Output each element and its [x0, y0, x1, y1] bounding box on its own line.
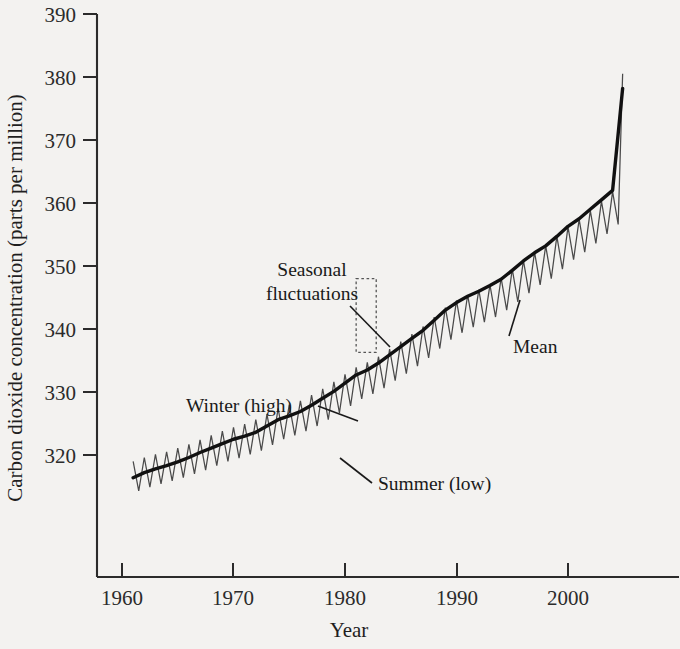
y-tick-label-370: 370 [45, 129, 77, 153]
seasonal-fluctuations-label-line2: fluctuations [266, 283, 358, 304]
x-axis-title: Year [330, 618, 369, 642]
x-tick-label-1980: 1980 [324, 586, 366, 610]
x-tick-label-1990: 1990 [436, 586, 478, 610]
y-tick-label-320: 320 [45, 444, 77, 468]
co2-concentration-chart: 390 380 370 360 350 340 330 320 1960 197… [0, 0, 680, 649]
y-tick-label-360: 360 [45, 192, 77, 216]
mean-label: Mean [513, 336, 558, 357]
x-tick-label-1970: 1970 [212, 586, 254, 610]
y-axis-title: Carbon dioxide concentration (parts per … [3, 94, 27, 502]
winter-high-label: Winter (high) [186, 395, 292, 417]
x-tick-label-2000: 2000 [547, 586, 589, 610]
y-tick-label-330: 330 [45, 381, 77, 405]
y-tick-label-380: 380 [45, 66, 77, 90]
y-tick-label-340: 340 [45, 318, 77, 342]
y-tick-label-350: 350 [45, 255, 77, 279]
chart-background [0, 0, 680, 649]
y-tick-label-390: 390 [45, 3, 77, 27]
seasonal-fluctuations-label-line1: Seasonal [277, 259, 347, 280]
x-tick-label-1960: 1960 [101, 586, 143, 610]
summer-low-label: Summer (low) [378, 473, 491, 495]
chart-figure: 390 380 370 360 350 340 330 320 1960 197… [0, 0, 680, 649]
